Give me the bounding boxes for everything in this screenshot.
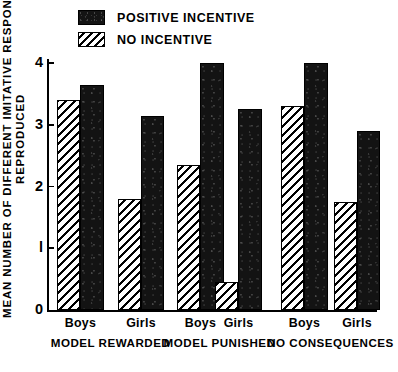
- x-group-label-2: NO CONSEQUENCES: [261, 336, 398, 349]
- legend-item-no-incentive: NO INCENTIVE: [78, 30, 328, 49]
- bar-no-consequences-boys-positive-incentive: [304, 63, 328, 310]
- y-tick-label-3: 3: [27, 117, 43, 132]
- y-tick-label-1: l: [27, 240, 43, 255]
- bar-no-consequences-girls-positive-incentive: [357, 131, 380, 310]
- bar-no-consequences-girls-no-incentive: [334, 202, 357, 310]
- bar-model-punished-girls-positive-incentive: [238, 109, 262, 310]
- legend-label-no-incentive: NO INCENTIVE: [117, 33, 213, 47]
- bar-model-rewarded-girls-positive-incentive: [141, 116, 164, 311]
- bar-no-consequences-boys-no-incentive: [281, 106, 304, 310]
- legend-swatch-hatched-icon: [78, 32, 105, 47]
- legend-label-positive-incentive: POSITIVE INCENTIVE: [117, 11, 255, 25]
- bar-model-rewarded-boys-positive-incentive: [80, 85, 104, 310]
- y-tick-label-0: 0: [27, 302, 43, 317]
- y-tick-label-2: 2: [27, 179, 43, 194]
- y-tick-label-4: 4: [27, 55, 43, 70]
- y-axis-title-line2-text: REPRODUCED: [15, 46, 26, 318]
- bar-model-punished-boys-positive-incentive: [200, 63, 224, 310]
- y-axis-title-line1: MEAN NUMBER OF DIFFERENT IMITATIVE RESPO…: [2, 46, 13, 318]
- chart-legend: POSITIVE INCENTIVE NO INCENTIVE: [78, 8, 328, 52]
- bar-model-punished-boys-no-incentive: [177, 165, 200, 310]
- legend-swatch-solid-icon: [78, 10, 105, 25]
- bar-model-punished-girls-no-incentive: [215, 282, 238, 310]
- plot-area: [47, 63, 387, 310]
- bar-model-rewarded-boys-no-incentive: [57, 100, 80, 310]
- x-sub-label-5: Girls: [317, 316, 397, 330]
- x-axis-line: [47, 310, 377, 312]
- bar-model-rewarded-girls-no-incentive: [118, 199, 141, 310]
- y-axis-title-line2: REPRODUCED: [15, 46, 26, 318]
- legend-item-positive-incentive: POSITIVE INCENTIVE: [78, 8, 328, 27]
